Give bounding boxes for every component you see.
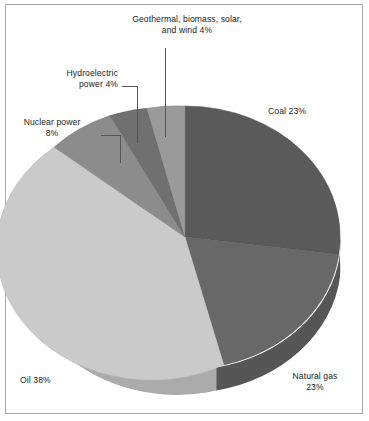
slice-label-coal: Coal 23% — [268, 106, 352, 117]
slice-label-nuclear: Nuclear power 8% — [6, 117, 98, 140]
slice-label-geothermal: Geothermal, biomass, solar, and wind 4% — [104, 14, 270, 37]
slice-label-oil: Oil 38% — [20, 375, 90, 386]
slice-label-hydroelectric: Hydroelectric power 4% — [26, 68, 118, 91]
slice-label-natural-gas: Natural gas 23% — [276, 371, 354, 394]
pie-chart-canvas — [0, 0, 369, 421]
pie-chart-figure: Geothermal, biomass, solar, and wind 4% … — [0, 0, 369, 421]
pie-slice-coal[interactable] — [185, 106, 340, 255]
